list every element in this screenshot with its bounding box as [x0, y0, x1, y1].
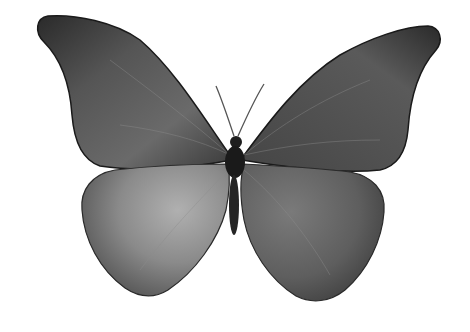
- right-hindwing: [241, 164, 384, 301]
- butterfly-abdomen: [229, 175, 239, 235]
- left-antenna: [216, 86, 234, 136]
- left-forewing: [38, 16, 232, 169]
- butterfly-thorax: [225, 146, 245, 178]
- left-hindwing: [82, 164, 230, 296]
- photo-canvas: [0, 0, 470, 332]
- right-antenna: [238, 84, 264, 136]
- butterfly-image: [0, 0, 470, 332]
